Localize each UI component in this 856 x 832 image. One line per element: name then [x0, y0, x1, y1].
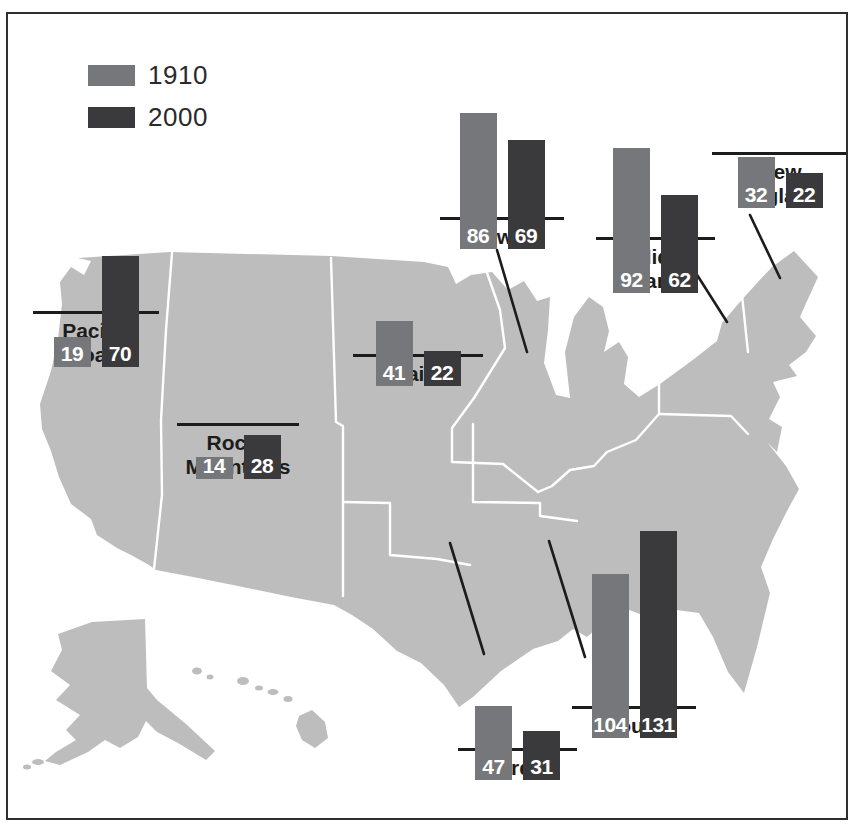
bar-2000-rocky-mountains: 28 — [244, 435, 281, 479]
region-chart-new-england: 32 22 New England — [712, 152, 848, 208]
bar-2000-mid-atlantic: 62 — [661, 195, 698, 293]
bar-2000-pacific-coast: 70 — [102, 256, 139, 367]
hawaii-island — [207, 675, 214, 680]
hawaii-island — [237, 677, 249, 685]
hawaii-island — [192, 668, 202, 675]
hawaii-island — [268, 689, 279, 695]
bar-value: 62 — [668, 269, 690, 290]
region-chart-plains: 41 22 Plains — [353, 354, 483, 386]
figure: 1910 2000 19 70 Pacific Coast 14 28 Rock… — [0, 0, 856, 832]
bar-value: 104 — [593, 714, 627, 735]
bar-value: 22 — [431, 362, 453, 383]
region-chart-pacific-coast: 19 70 Pacific Coast — [33, 311, 159, 367]
region-chart-border: 47 31 Border — [458, 748, 577, 780]
bar-value: 41 — [383, 362, 405, 383]
aleutian-island — [32, 759, 44, 765]
bar-value: 131 — [641, 714, 675, 735]
chart-baseline — [177, 423, 299, 426]
region-chart-south: 104 131 South — [572, 706, 696, 738]
hawaii-island — [284, 696, 293, 702]
bar-2000-south: 131 — [640, 531, 677, 738]
bar-value: 28 — [251, 455, 273, 476]
bar-2000-midwest: 69 — [508, 140, 545, 249]
chart-baseline — [712, 152, 848, 155]
legend-swatch-1910 — [88, 65, 135, 86]
region-chart-mid-atlantic: 92 62 Mid- Atlantic — [596, 237, 715, 293]
bar-1910-new-england: 32 — [738, 157, 775, 208]
bar-value: 92 — [620, 269, 642, 290]
bar-value: 69 — [515, 225, 537, 246]
aleutian-island — [23, 765, 31, 770]
legend-item-2000: 2000 — [88, 102, 208, 133]
legend: 1910 2000 — [88, 60, 208, 144]
bar-2000-plains: 22 — [424, 351, 461, 386]
bar-2000-border: 31 — [523, 731, 560, 780]
region-chart-midwest: 86 69 Midwest — [440, 217, 564, 249]
hawaii-big-island — [296, 710, 328, 748]
bar-value: 70 — [109, 343, 131, 364]
hawaii-island — [255, 686, 263, 691]
bar-2000-new-england: 22 — [786, 173, 823, 208]
bar-1910-rocky-mountains: 14 — [196, 457, 233, 479]
alaska-shape — [45, 619, 215, 765]
callout-line-newengland — [750, 215, 780, 278]
bar-1910-plains: 41 — [376, 321, 413, 386]
bar-1910-midwest: 86 — [460, 113, 497, 249]
bar-1910-mid-atlantic: 92 — [613, 148, 650, 293]
bar-value: 32 — [745, 184, 767, 205]
bar-1910-south: 104 — [592, 574, 629, 738]
legend-label-2000: 2000 — [148, 102, 208, 133]
legend-label-1910: 1910 — [148, 60, 208, 91]
bar-value: 14 — [203, 455, 225, 476]
legend-swatch-2000 — [88, 107, 135, 128]
bar-value: 47 — [482, 756, 504, 777]
bar-value: 19 — [61, 343, 83, 364]
region-chart-rocky-mountains: 14 28 Rocky Mountains — [177, 423, 299, 479]
bar-1910-pacific-coast: 19 — [54, 337, 91, 367]
bar-value: 22 — [793, 184, 815, 205]
bar-value: 86 — [467, 225, 489, 246]
bar-value: 31 — [530, 756, 552, 777]
legend-item-1910: 1910 — [88, 60, 208, 91]
bar-1910-border: 47 — [475, 706, 512, 780]
